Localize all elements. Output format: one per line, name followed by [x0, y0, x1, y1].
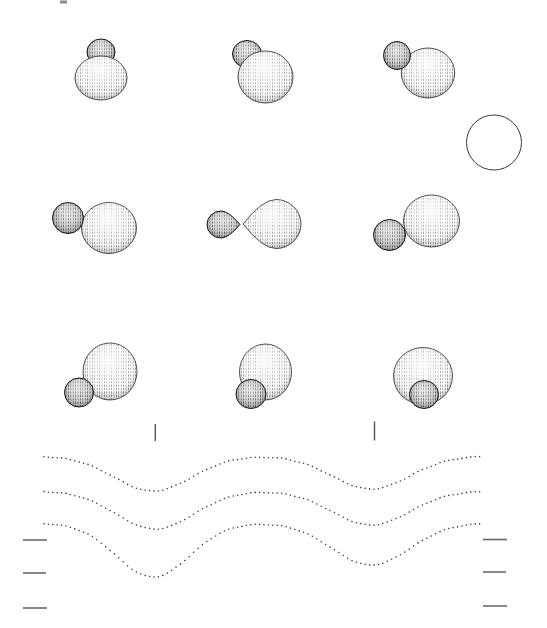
- curve-dot: [281, 457, 283, 459]
- curve-dot: [122, 561, 124, 563]
- curve-dot: [144, 575, 146, 577]
- curve-dot: [457, 458, 459, 460]
- curve-dot: [193, 513, 195, 515]
- curve-dot: [52, 457, 54, 459]
- small-star: [53, 203, 84, 234]
- curve-dot: [206, 469, 208, 471]
- curve-dot: [52, 524, 54, 526]
- curve-dot: [444, 529, 446, 531]
- curve-dot: [254, 456, 256, 458]
- binary-pair-phase-5: [207, 200, 301, 249]
- curve-dot: [400, 480, 402, 482]
- star-rim-shade: [243, 200, 301, 249]
- curve-dot: [408, 548, 410, 550]
- curve-dot: [378, 524, 380, 526]
- curve-dot: [369, 564, 371, 566]
- curve-dot: [347, 483, 349, 485]
- curve-dot: [417, 542, 419, 544]
- light-curve-2: [43, 491, 480, 530]
- artifact-layer: [60, 1, 67, 4]
- curve-dot: [43, 523, 45, 525]
- curve-dot: [430, 466, 432, 468]
- large-star: [238, 51, 293, 103]
- curve-dot: [276, 492, 278, 494]
- curve-dot: [268, 524, 270, 526]
- curve-dot: [43, 456, 45, 458]
- curve-dot: [312, 466, 314, 468]
- small-star: [410, 381, 439, 409]
- large-star: [75, 56, 127, 100]
- curve-dot: [175, 484, 177, 486]
- curve-dot: [136, 571, 138, 573]
- curve-dot: [83, 497, 85, 499]
- curve-dot: [175, 523, 177, 525]
- curve-dot: [290, 494, 292, 496]
- curve-dot: [439, 497, 441, 499]
- curve-dot: [360, 523, 362, 525]
- curve-dot: [329, 510, 331, 512]
- curve-dot: [426, 467, 428, 469]
- curve-dot: [452, 494, 454, 496]
- curve-dot: [61, 492, 63, 494]
- curve-dot: [184, 560, 186, 562]
- curve-dot: [228, 528, 230, 530]
- curve-dot: [448, 528, 450, 530]
- curve-dot: [224, 530, 226, 532]
- curve-dot: [210, 467, 212, 469]
- curve-dot: [386, 561, 388, 563]
- curve-dot: [364, 488, 366, 490]
- curve-dot: [65, 458, 67, 460]
- small-star: [236, 380, 266, 409]
- curve-dot: [391, 558, 393, 560]
- curve-dot: [237, 459, 239, 461]
- curve-dot: [188, 556, 190, 558]
- curve-dot: [378, 564, 380, 566]
- curve-dot: [435, 533, 437, 535]
- binary-pair-phase-6: [374, 195, 460, 251]
- curve-dot: [285, 526, 287, 528]
- curve-dot: [87, 533, 89, 535]
- curve-dot: [175, 566, 177, 568]
- curve-dot: [422, 540, 424, 542]
- curve-dot: [70, 527, 72, 529]
- curve-dot: [290, 527, 292, 529]
- curve-dot: [74, 495, 76, 497]
- curve-dot: [272, 492, 274, 494]
- light-curve-3: [43, 523, 480, 578]
- curve-dot: [162, 575, 164, 577]
- curve-dot: [193, 476, 195, 478]
- curve-dot: [457, 526, 459, 528]
- curve-dot: [452, 527, 454, 529]
- curve-dot: [224, 498, 226, 500]
- light-curves-layer: [43, 456, 480, 578]
- curve-dot: [250, 492, 252, 494]
- curve-dot: [395, 556, 397, 558]
- curve-dot: [452, 459, 454, 461]
- curve-dot: [127, 565, 129, 567]
- curve-dot: [153, 528, 155, 530]
- curve-dot: [356, 486, 358, 488]
- curve-dot: [294, 460, 296, 462]
- reference-circle-layer: [467, 115, 522, 170]
- curve-dot: [219, 533, 221, 535]
- curve-dot: [171, 569, 173, 571]
- curve-dot: [140, 488, 142, 490]
- curve-dot: [395, 518, 397, 520]
- curve-dot: [224, 462, 226, 464]
- curve-dot: [338, 552, 340, 554]
- curve-dot: [83, 462, 85, 464]
- curve-dot: [166, 526, 168, 528]
- curve-dot: [479, 523, 481, 525]
- curve-dot: [241, 458, 243, 460]
- curve-dot: [386, 485, 388, 487]
- curve-dot: [105, 508, 107, 510]
- curve-dot: [118, 515, 120, 517]
- curve-dot: [457, 493, 459, 495]
- curve-dot: [430, 535, 432, 537]
- curve-dot: [347, 558, 349, 560]
- binary-pair-phase-9: [394, 348, 453, 409]
- curve-dot: [422, 469, 424, 471]
- curve-dot: [100, 542, 102, 544]
- curve-dot: [298, 462, 300, 464]
- curve-dot: [263, 457, 265, 459]
